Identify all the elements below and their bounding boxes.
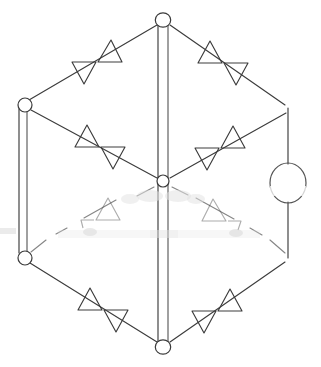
node-left-lower[interactable] (18, 251, 32, 265)
smudge-edge-left (0, 228, 16, 234)
arrowhead-triangle-down-icon (81, 220, 94, 228)
edge-right-upper-center (170, 113, 286, 178)
smudge-right-spoke (187, 194, 205, 204)
smudge-center-left (137, 190, 163, 202)
edge-right-lower-bottom (170, 262, 285, 342)
arrow-pair-lower-right-faded (202, 199, 241, 230)
arrow-pair-bottom-right (192, 289, 242, 333)
arrowhead-triangle-up-icon (202, 199, 226, 221)
scan-gap-loop-left (270, 186, 275, 196)
scan-gap-loop-right (301, 186, 306, 196)
arrow-pair-mid-right (195, 126, 245, 170)
smudge-left-spoke (121, 194, 139, 204)
diagram-canvas: Hexagonal directed graph diagram Hand-dr… (0, 0, 321, 367)
arrow-pair-lower-left-faded (81, 198, 120, 228)
edge-left-vertical-double (19, 109, 27, 253)
scan-artifact-group (0, 190, 260, 238)
arrowhead-triangle-down-icon (192, 311, 216, 333)
smudge-center-right (165, 190, 191, 202)
node-top[interactable] (155, 13, 170, 27)
arrowhead-triangle-up-icon (221, 126, 245, 148)
edge-center-left-lower-seg4 (31, 240, 46, 252)
arrowhead-triangle-up-icon (98, 40, 122, 62)
edge-top-right-upper (170, 25, 285, 105)
node-center[interactable] (157, 175, 169, 187)
hexagon-graph-figure (0, 0, 321, 367)
node-bottom[interactable] (155, 340, 170, 354)
arrow-pair-top-right (198, 41, 248, 85)
edge-left-lower-bottom (30, 263, 157, 342)
edge-left-upper-center (31, 110, 157, 178)
edge-center-right-lower-seg4 (270, 240, 285, 253)
arrowhead-triangle-down-icon (224, 63, 248, 85)
arrowhead-triangle-up-icon (198, 41, 222, 63)
node-left-upper[interactable] (18, 98, 32, 112)
arrowhead-triangle-down-icon (195, 148, 219, 170)
arrow-pair-bottom-left (78, 288, 128, 332)
edge-right-vertical (270, 108, 306, 258)
arrowhead-triangle-down-icon (104, 310, 128, 332)
arrow-pair-top-left (72, 40, 122, 84)
arrowhead-triangle-up-icon (78, 288, 102, 310)
self-loop-circle-icon (270, 163, 306, 203)
arrowhead-triangle-down-icon (228, 221, 241, 230)
smudge-band-right (150, 230, 260, 238)
